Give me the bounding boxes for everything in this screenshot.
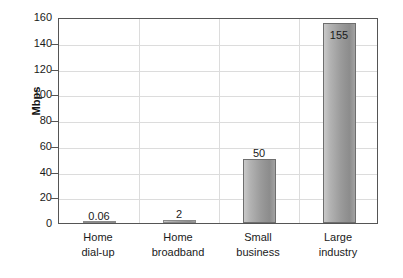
category-label-line: Small: [218, 230, 298, 245]
bar-value-label: 155: [310, 29, 369, 41]
category-label-line: industry: [298, 245, 378, 260]
x-axis-category-label: Homedial-up: [58, 230, 138, 260]
gridline-vertical: [219, 19, 220, 223]
gridline-vertical: [139, 19, 140, 223]
y-axis-tick-mark: [51, 173, 58, 174]
category-label-line: Home: [138, 230, 218, 245]
category-label-line: broadband: [138, 245, 218, 260]
gridline-vertical: [299, 19, 300, 223]
y-axis-tick-mark: [51, 198, 58, 199]
y-axis-tick-label: 120: [22, 64, 52, 75]
category-label-line: dial-up: [58, 245, 138, 260]
y-axis-tick-label: 140: [22, 38, 52, 49]
bar-value-label: 2: [150, 208, 209, 220]
bar: [163, 220, 196, 223]
x-axis-category-label: Homebroadband: [138, 230, 218, 260]
category-label-line: Home: [58, 230, 138, 245]
y-axis-tick-mark: [51, 70, 58, 71]
y-axis-tick-label: 160: [22, 12, 52, 23]
bar-value-label: 50: [230, 147, 289, 159]
category-label-line: business: [218, 245, 298, 260]
y-axis-tick-mark: [51, 147, 58, 148]
y-axis-tick-label: 0: [22, 218, 52, 229]
bar-value-label: 0.06: [70, 210, 129, 222]
plot-area: 0.06250155: [58, 18, 378, 224]
bar: [243, 159, 276, 223]
x-axis-category-label: Smallbusiness: [218, 230, 298, 260]
y-axis-tick-label: 60: [22, 141, 52, 152]
y-axis-tick-mark: [51, 95, 58, 96]
y-axis-tick-mark: [51, 44, 58, 45]
y-axis-tick-label: 40: [22, 167, 52, 178]
y-axis-tick-label: 100: [22, 89, 52, 100]
category-label-line: Large: [298, 230, 378, 245]
x-axis-category-labels: Homedial-upHomebroadbandSmallbusinessLar…: [58, 230, 378, 272]
y-axis-tick-mark: [51, 121, 58, 122]
y-axis-tick-label: 80: [22, 115, 52, 126]
y-axis-tick-label: 20: [22, 192, 52, 203]
x-axis-category-label: Largeindustry: [298, 230, 378, 260]
y-axis-tick-labels: 020406080100120140160: [22, 0, 52, 278]
bar-chart: Mbps 020406080100120140160 0.06250155 Ho…: [0, 0, 403, 278]
bar: [323, 23, 356, 223]
